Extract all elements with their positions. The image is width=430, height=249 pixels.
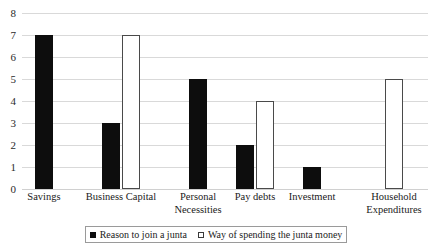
x-tick-label: HouseholdExpenditures — [354, 191, 430, 216]
x-tick-label-line: Personal — [162, 191, 234, 204]
legend-label: Way of spending the junta money — [208, 230, 342, 240]
gridline — [22, 13, 428, 14]
bar-pay-debts-filled[interactable] — [236, 145, 254, 189]
x-tick-label-line: Necessities — [162, 204, 234, 217]
legend-entry[interactable]: Reason to join a junta — [90, 230, 187, 240]
gridline — [22, 35, 428, 36]
x-tick-label-line: Pay debts — [225, 191, 285, 204]
gridline — [22, 123, 428, 124]
x-tick-label: PersonalNecessities — [162, 191, 234, 216]
bar-savings-filled[interactable] — [35, 35, 53, 189]
x-tick-label-line: Expenditures — [354, 204, 430, 217]
x-tick-label: Business Capital — [82, 191, 160, 204]
plot-area — [22, 13, 428, 189]
gridline — [22, 79, 428, 80]
gridline — [22, 57, 428, 58]
y-tick-label: 3 — [11, 118, 17, 129]
y-tick-label: 4 — [11, 96, 17, 107]
legend-entry[interactable]: Way of spending the junta money — [198, 230, 342, 240]
y-tick-label: 6 — [11, 52, 17, 63]
y-tick-label: 7 — [11, 30, 17, 41]
y-tick-label: 5 — [11, 74, 17, 85]
chart-legend: Reason to join a juntaWay of spending th… — [85, 226, 347, 243]
x-tick-label: Savings — [11, 191, 78, 204]
x-tick-label-line: Household — [354, 191, 430, 204]
y-axis: 876543210 — [0, 0, 22, 202]
bar-business-capital-hollow[interactable] — [122, 35, 140, 189]
filled-square-icon — [90, 232, 96, 238]
bar-pay-debts-hollow[interactable] — [256, 101, 274, 189]
y-tick-label: 2 — [11, 140, 17, 151]
bar-chart: 876543210 SavingsBusiness CapitalPersona… — [0, 0, 430, 249]
x-tick-label-line: Savings — [11, 191, 78, 204]
gridline — [22, 145, 428, 146]
x-tick-label-line: Investment — [279, 191, 345, 204]
bar-personal-necessities-filled[interactable] — [189, 79, 207, 189]
x-tick-label-line: Business Capital — [82, 191, 160, 204]
x-tick-label: Pay debts — [225, 191, 285, 204]
gridline — [22, 101, 428, 102]
x-tick-label: Investment — [279, 191, 345, 204]
gridline — [22, 189, 428, 190]
legend-label: Reason to join a junta — [100, 230, 187, 240]
hollow-square-icon — [198, 232, 204, 238]
x-axis-category-labels: SavingsBusiness CapitalPersonalNecessiti… — [22, 191, 428, 225]
gridline — [22, 167, 428, 168]
bar-business-capital-filled[interactable] — [102, 123, 120, 189]
y-tick-label: 8 — [11, 8, 17, 19]
bar-household-expenditures-hollow[interactable] — [385, 79, 403, 189]
bar-investment-filled[interactable] — [303, 167, 321, 189]
y-tick-label: 1 — [11, 162, 17, 173]
